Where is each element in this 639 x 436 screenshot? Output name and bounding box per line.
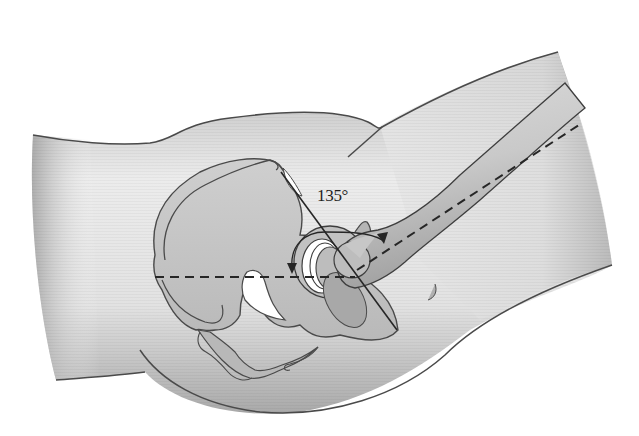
hip-joint-diagram xyxy=(0,0,639,436)
angle-label: 135° xyxy=(317,186,348,206)
